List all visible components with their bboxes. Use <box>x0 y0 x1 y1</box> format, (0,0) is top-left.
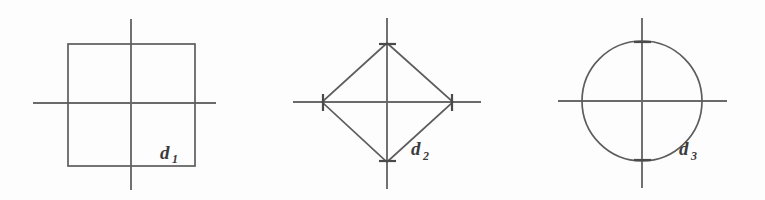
square-label: d <box>160 142 170 163</box>
figure-diamond-group: d 2 <box>293 18 481 189</box>
diamond-label: d <box>411 138 421 159</box>
figure-square-group: d 1 <box>33 19 216 190</box>
figure-circle-group: d 3 <box>558 18 727 188</box>
circle-label: d <box>679 138 689 159</box>
circle-label-subscript: 3 <box>690 149 697 163</box>
square-label-subscript: 1 <box>172 152 178 166</box>
diamond-label-subscript: 2 <box>422 149 429 163</box>
figure-panel: d 1 d 2 d 3 <box>0 0 765 200</box>
figure-canvas: d 1 d 2 d 3 <box>0 0 765 200</box>
